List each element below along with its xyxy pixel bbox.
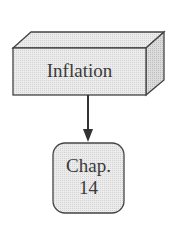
chapter-label-line2: 14 (53, 177, 124, 199)
arrow-connector (83, 95, 93, 142)
inflation-label: Inflation (13, 59, 146, 83)
chapter-label-line1: Chap. (53, 155, 124, 177)
